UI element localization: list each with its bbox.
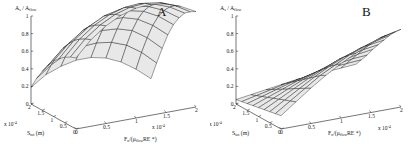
depth-tick-mark xyxy=(54,115,57,116)
panel-a-horiz-label: Fn/(μflowRE *) xyxy=(124,136,157,143)
horiz-tick-label: 0 xyxy=(280,129,283,135)
horiz-tick-label: 1 xyxy=(135,118,138,124)
panel-b-depth-label: Stot (m) xyxy=(232,130,249,137)
z-tick-label: 0.8 xyxy=(22,31,29,37)
z-tick-label: 1 xyxy=(26,13,29,19)
z-tick-label: 0.2 xyxy=(22,83,29,89)
panel-b-z-ticks: 00.20.40.60.81 xyxy=(227,13,239,107)
depth-tick-label: 1 xyxy=(51,117,54,123)
panel-a-z-ticks: 00.20.40.60.81 xyxy=(22,13,34,107)
surface-cell xyxy=(380,29,401,38)
panel-b-horiz-multiplier: x 10-4 xyxy=(378,124,391,131)
panel-a-zaxis-label: As / Aflow xyxy=(15,5,36,12)
panel-a-plot: 00.20.40.60.81 21.510.50 00.511.52 As / … xyxy=(0,0,210,146)
panel-b-zaxis-label: As / Aflow xyxy=(220,5,241,12)
depth-tick-label: 0.5 xyxy=(265,123,272,129)
horiz-tick-label: 1.5 xyxy=(163,113,170,119)
horiz-tick-label: 2 xyxy=(195,107,198,113)
panel-a: 00.20.40.60.81 21.510.50 00.511.52 As / … xyxy=(0,0,210,146)
panel-a-depth-multiplier: x 10-4 xyxy=(4,120,17,127)
panel-a-letter: A xyxy=(157,4,166,20)
panel-b: 00.20.40.60.81 21.510.50 00.511.52 As / … xyxy=(210,0,420,146)
horiz-tick-label: 1 xyxy=(340,118,343,124)
z-tick-label: 0.4 xyxy=(227,66,234,72)
depth-tick-label: 2 xyxy=(28,104,31,110)
z-tick-label: 0.2 xyxy=(227,83,234,89)
panel-b-horiz-label: Fn/(μflowRE *) xyxy=(328,130,361,137)
depth-tick-label: 2 xyxy=(233,104,236,110)
horiz-tick-label: 0 xyxy=(75,129,78,135)
surface-cell xyxy=(31,64,52,87)
figure-root: 00.20.40.60.81 21.510.50 00.511.52 As / … xyxy=(0,0,420,146)
panel-a-horiz-multiplier: x 10-4 xyxy=(152,123,165,130)
panel-b-plot: 00.20.40.60.81 21.510.50 00.511.52 As / … xyxy=(210,0,420,146)
horiz-tick-label: 0.5 xyxy=(103,124,110,130)
panel-a-depth-label: Stot (m) xyxy=(27,130,44,137)
depth-tick-label: 1 xyxy=(256,117,259,123)
z-tick-label: 0.6 xyxy=(227,48,234,54)
z-tick-label: 0.6 xyxy=(22,48,29,54)
z-tick-label: 1 xyxy=(231,13,234,19)
panel-b-depth-multiplier: x 10-4 xyxy=(210,120,222,127)
horiz-tick-label: 0.5 xyxy=(308,124,315,130)
panel-b-letter: B xyxy=(362,4,371,20)
panel-a-horiz-ticks: 00.511.52 xyxy=(74,105,198,135)
horiz-tick-label: 1.5 xyxy=(368,113,375,119)
depth-tick-label: 0.5 xyxy=(60,123,67,129)
panel-b-surface-mesh xyxy=(236,29,401,115)
depth-tick-label: 1.5 xyxy=(37,110,44,116)
z-tick-label: 0.8 xyxy=(227,31,234,37)
horiz-tick-label: 2 xyxy=(400,107,403,113)
depth-tick-mark xyxy=(259,115,262,116)
z-tick-label: 0.4 xyxy=(22,66,29,72)
panel-a-surface-mesh xyxy=(31,3,196,88)
depth-tick-label: 1.5 xyxy=(242,110,249,116)
